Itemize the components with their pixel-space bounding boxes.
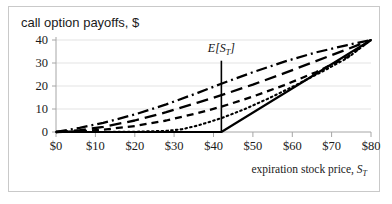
y-tick-label-40: 40	[36, 33, 49, 47]
chart-frame: call option payoffs, $ 40 30	[8, 6, 380, 192]
y-tick-label-30: 30	[36, 56, 49, 70]
chart-figure: call option payoffs, $ 40 30	[0, 0, 392, 204]
x-axis-title-sub: T	[363, 169, 368, 178]
chart-plot-area: 40 30 20 10 0 $0 $10 $20 $	[9, 7, 381, 193]
annotation-label-main: E[S	[207, 41, 226, 55]
x-tick-label-70: $70	[322, 139, 341, 153]
x-tick-label-50: $50	[244, 139, 263, 153]
y-tick-label-0: 0	[42, 125, 48, 139]
y-tick-label-20: 20	[36, 79, 49, 93]
x-axis-title: expiration stock price, ST	[251, 163, 367, 178]
x-tick-label-30: $30	[165, 139, 184, 153]
x-tick-label-40: $40	[204, 139, 223, 153]
x-tick-label-20: $20	[125, 139, 144, 153]
y-axis-ticks	[52, 40, 56, 132]
y-tick-label-10: 10	[36, 102, 49, 116]
expected-price-label: E[ST]	[207, 41, 235, 57]
x-tick-label-80: $80	[362, 139, 381, 153]
x-tick-label-0: $0	[50, 139, 63, 153]
x-axis-title-main: expiration stock price,	[251, 163, 356, 176]
x-tick-label-60: $60	[283, 139, 302, 153]
x-tick-label-10: $10	[86, 139, 105, 153]
annotation-label-end: ]	[229, 41, 235, 55]
